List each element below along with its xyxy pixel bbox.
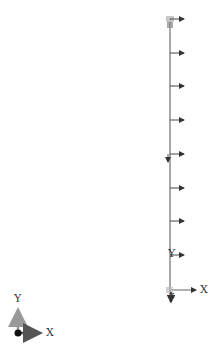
local-z-label: Z [169,292,175,300]
local-x-label: X [200,284,208,295]
global-origin-icon [15,330,22,337]
global-y-label: Y [14,293,21,304]
load-arrows [170,19,184,255]
local-y-label: Y [168,248,175,259]
model-canvas [0,0,223,350]
model-viewport[interactable]: Y X Z Y X [0,0,223,350]
global-axes-triad [15,312,39,337]
global-x-label: X [46,327,54,338]
